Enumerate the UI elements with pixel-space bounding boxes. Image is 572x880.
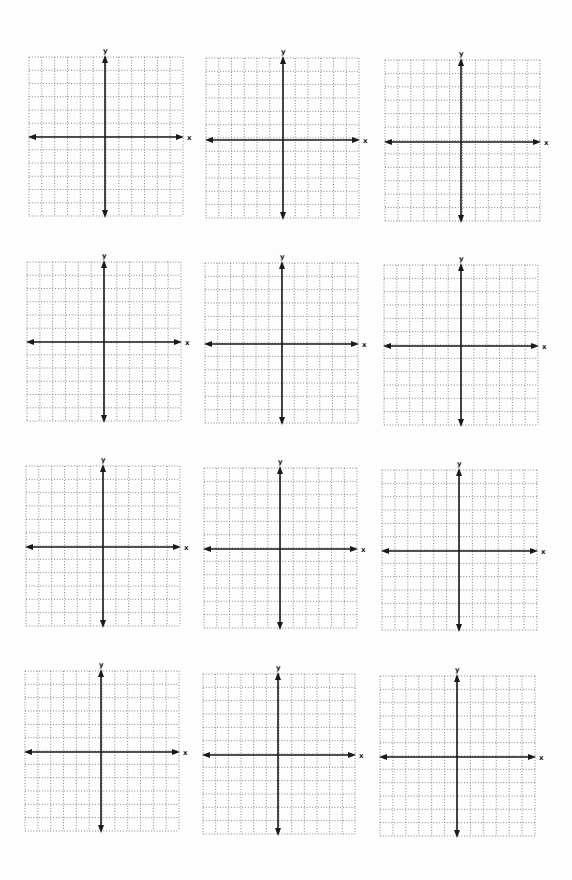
worksheet-page: xyxyxyxyxyxyxyxyxyxyxyxy — [0, 0, 572, 880]
coordinate-grid-10: xy — [13, 659, 191, 843]
arrow-down-icon — [275, 828, 281, 836]
arrow-down-icon — [454, 830, 460, 838]
coordinate-grid-3: xy — [373, 48, 552, 233]
x-axis-label: x — [359, 752, 364, 760]
coordinate-grid-7: xy — [14, 454, 192, 638]
y-axis-label: y — [99, 661, 104, 669]
y-axis-label: y — [102, 252, 107, 260]
x-axis-label: x — [185, 339, 190, 347]
dotted-gridlines — [203, 674, 355, 834]
coordinate-grid-5: xy — [193, 251, 370, 435]
arrow-down-icon — [458, 215, 464, 223]
dotted-gridlines — [385, 60, 540, 221]
coordinate-grid-12: xy — [368, 664, 547, 848]
coordinate-grid-9: xy — [370, 458, 549, 642]
coordinate-grid-8: xy — [192, 456, 369, 640]
y-axis-label: y — [459, 255, 464, 263]
y-axis-label: y — [276, 664, 281, 672]
arrow-down-icon — [279, 417, 285, 425]
y-axis-label: y — [103, 47, 108, 55]
y-axis — [98, 669, 104, 833]
x-axis-label: x — [361, 546, 366, 554]
arrow-up-icon — [98, 669, 104, 677]
y-axis — [277, 466, 283, 630]
arrow-down-icon — [100, 620, 106, 628]
arrow-down-icon — [98, 825, 104, 833]
y-axis-label: y — [281, 48, 286, 56]
arrow-down-icon — [280, 212, 286, 220]
arrow-up-icon — [100, 464, 106, 472]
y-axis-label: y — [455, 666, 460, 674]
arrow-down-icon — [458, 419, 464, 427]
arrow-down-icon — [102, 210, 108, 218]
y-axis-label: y — [457, 460, 462, 468]
y-axis-label: y — [459, 50, 464, 58]
coordinate-grid-4: xy — [15, 250, 193, 433]
arrow-up-icon — [102, 55, 108, 63]
arrow-up-icon — [454, 674, 460, 682]
y-axis-label: y — [280, 253, 285, 261]
coordinate-grid-1: xy — [17, 45, 195, 228]
x-axis-label: x — [544, 139, 549, 147]
arrow-up-icon — [101, 260, 107, 268]
arrow-up-icon — [275, 672, 281, 680]
dotted-gridlines — [25, 671, 179, 831]
x-axis-label: x — [363, 137, 368, 145]
arrow-up-icon — [280, 56, 286, 64]
arrow-down-icon — [101, 415, 107, 423]
arrow-up-icon — [277, 466, 283, 474]
arrow-up-icon — [458, 263, 464, 271]
x-axis-label: x — [187, 134, 192, 142]
arrow-down-icon — [277, 622, 283, 630]
coordinate-grid-2: xy — [194, 46, 371, 230]
arrow-up-icon — [458, 58, 464, 66]
y-axis — [458, 58, 464, 223]
y-axis-label: y — [278, 458, 283, 466]
x-axis-label: x — [541, 548, 546, 556]
x-axis-label: x — [542, 343, 547, 351]
arrow-down-icon — [456, 624, 462, 632]
arrow-up-icon — [279, 261, 285, 269]
x-axis-label: x — [184, 544, 189, 552]
y-axis-label: y — [101, 456, 106, 464]
x-axis-label: x — [539, 754, 544, 762]
coordinate-grid-11: xy — [191, 662, 367, 846]
arrow-up-icon — [456, 468, 462, 476]
x-axis-label: x — [362, 341, 367, 349]
x-axis-label: x — [183, 749, 188, 757]
coordinate-grid-6: xy — [372, 253, 550, 437]
